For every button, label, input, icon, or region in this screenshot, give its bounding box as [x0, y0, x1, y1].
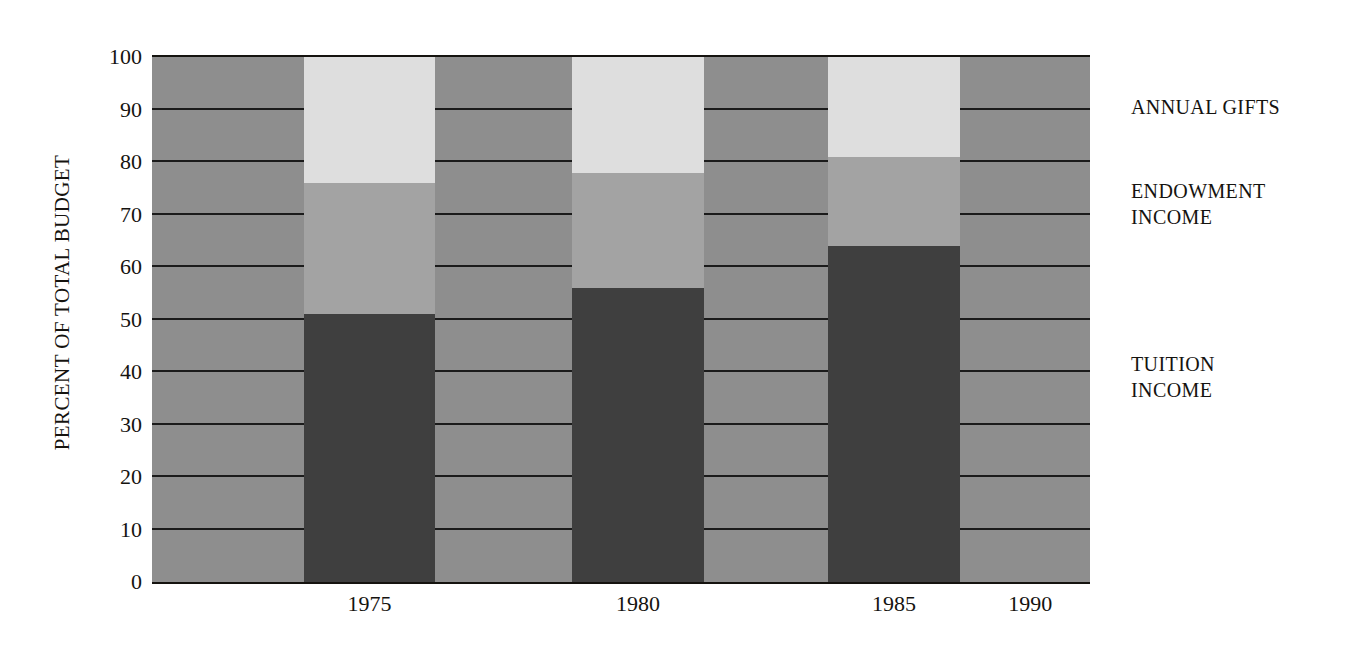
y-tick-label: 100 — [96, 46, 142, 68]
bar-segment — [304, 57, 435, 183]
y-tick-label: 50 — [96, 309, 142, 331]
x-tick-label: 1980 — [616, 591, 660, 617]
bar-segment — [828, 246, 959, 582]
x-axis-tick-labels: 1975198019851990 — [152, 591, 1090, 625]
x-tick-label: 1985 — [872, 591, 916, 617]
stacked-bar — [572, 57, 703, 582]
x-tick-label: 1975 — [348, 591, 392, 617]
y-tick-label: 90 — [96, 99, 142, 121]
bar-segment — [304, 314, 435, 582]
bar-segment — [828, 157, 959, 246]
y-axis-title: PERCENT OF TOTAL BUDGET — [50, 23, 75, 583]
bar-segment — [828, 57, 959, 157]
x-tick-label: 1990 — [1008, 591, 1052, 617]
y-tick-label: 70 — [96, 204, 142, 226]
y-axis-tick-labels: 0102030405060708090100 — [96, 57, 142, 582]
bar-segment — [572, 57, 703, 173]
legend-entry: ENDOWMENT INCOME — [1131, 178, 1266, 231]
y-tick-label: 60 — [96, 256, 142, 278]
bar-segment — [572, 288, 703, 582]
y-tick-label: 40 — [96, 361, 142, 383]
stacked-bar — [304, 57, 435, 582]
y-tick-label: 0 — [96, 571, 142, 593]
y-tick-label: 20 — [96, 466, 142, 488]
legend-entry: ANNUAL GIFTS — [1131, 94, 1280, 120]
y-tick-label: 30 — [96, 414, 142, 436]
y-tick-label: 10 — [96, 519, 142, 541]
legend-entry: TUITION INCOME — [1131, 351, 1215, 404]
chart-legend: ANNUAL GIFTSENDOWMENT INCOMETUITION INCO… — [1131, 57, 1361, 582]
bar-segment — [572, 173, 703, 289]
plot-area — [152, 57, 1090, 582]
y-tick-label: 80 — [96, 151, 142, 173]
stacked-bar — [828, 57, 959, 582]
bar-segment — [304, 183, 435, 314]
